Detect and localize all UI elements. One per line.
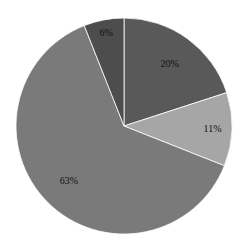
pie-chart: 20%11%63%6% [0, 0, 244, 250]
slice-label: 20% [161, 58, 179, 69]
slice-label: 6% [100, 27, 113, 38]
slice-label: 11% [204, 123, 222, 134]
slice-label: 63% [60, 175, 78, 186]
pie-slices [16, 18, 232, 234]
